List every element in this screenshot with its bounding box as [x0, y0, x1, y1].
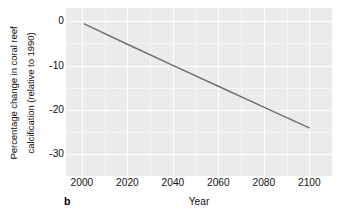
x-axis-tick-label: 2060 — [207, 178, 230, 188]
x-axis-tick-label: 2000 — [71, 178, 94, 188]
panel-label: b — [64, 195, 70, 207]
figure-panel-b: Percentage change in coral reef calcific… — [0, 0, 349, 222]
y-axis-tick-label: -30 — [38, 149, 64, 159]
y-axis-tick-label: 0 — [38, 16, 64, 26]
y-axis-tick-label: -20 — [38, 105, 64, 115]
y-axis-tick-label: -10 — [38, 61, 64, 71]
x-axis-tick-label: 2100 — [298, 178, 321, 188]
x-axis-tick-label: 2080 — [252, 178, 275, 188]
data-series-line — [66, 8, 332, 176]
x-axis-title: Year — [66, 196, 332, 207]
x-axis-tick-labels: 200020202040206020802100 — [0, 178, 349, 192]
plot-area — [66, 8, 332, 176]
y-axis-title-line-2: calcification (relative to 1990) — [25, 32, 36, 153]
y-axis-title-line-1: Percentage change in coral reef — [8, 27, 19, 160]
x-axis-tick-label: 2020 — [116, 178, 139, 188]
x-axis-tick-label: 2040 — [162, 178, 185, 188]
